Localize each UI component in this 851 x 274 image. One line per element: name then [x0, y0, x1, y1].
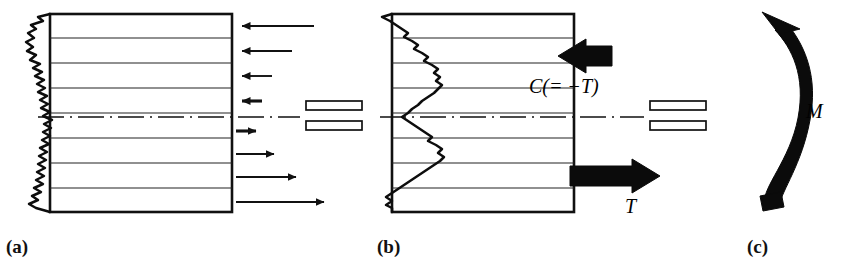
- panel-a-caption: (a): [6, 236, 28, 258]
- compression-force-label: C(= −T): [529, 75, 599, 98]
- tension-force-arrow: [570, 159, 660, 193]
- equals-sign-2: [650, 101, 706, 130]
- diagram-svg: [0, 0, 851, 274]
- equals-sign-1: [306, 101, 362, 130]
- panel-c: [760, 12, 813, 211]
- panel-b-caption: (b): [377, 236, 400, 258]
- panel-a: [26, 14, 300, 212]
- figure-container: C(= −T) T M (a) (b) (c): [0, 0, 851, 274]
- panel-a-stress-trace: [26, 14, 52, 212]
- panel-a-stress-arrows: [236, 26, 324, 202]
- panel-c-caption: (c): [747, 236, 768, 258]
- moment-label: M: [806, 100, 823, 123]
- tension-force-label: T: [625, 195, 636, 218]
- moment-arrow-tail: [760, 192, 784, 211]
